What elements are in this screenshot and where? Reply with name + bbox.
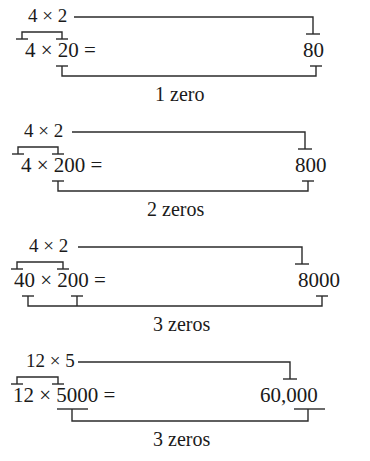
row-3-result: 8000 (298, 270, 340, 291)
math-diagram: 4 × 2 4 × 20 = 80 1 zero 4 × 2 4 × 200 =… (0, 0, 370, 461)
diagram-row-4: 12 × 5 12 × 5000 = 60,000 3 zeros (0, 345, 370, 460)
row-3-caption: 3 zeros (153, 314, 210, 334)
diagram-row-2: 4 × 2 4 × 200 = 800 2 zeros (0, 115, 370, 230)
row-1-basic-fact: 4 × 2 (28, 6, 67, 25)
row-1-result: 80 (303, 40, 324, 61)
row-2-expression: 4 × 200 = (21, 155, 102, 176)
row-1-caption: 1 zero (155, 84, 204, 104)
row-3-expression: 40 × 200 = (14, 270, 106, 291)
row-2-result: 800 (295, 155, 327, 176)
row-3-basic-fact: 4 × 2 (29, 236, 68, 255)
row-4-expression: 12 × 5000 = (13, 385, 115, 406)
diagram-row-3: 4 × 2 40 × 200 = 8000 3 zeros (0, 230, 370, 345)
row-2-caption: 2 zeros (147, 199, 204, 219)
row-4-result: 60,000 (260, 385, 318, 406)
row-4-caption: 3 zeros (153, 429, 210, 449)
row-4-basic-fact: 12 × 5 (26, 351, 75, 370)
row-1-expression: 4 × 20 = (25, 40, 96, 61)
row-2-basic-fact: 4 × 2 (24, 121, 63, 140)
diagram-row-1: 4 × 2 4 × 20 = 80 1 zero (0, 0, 370, 115)
